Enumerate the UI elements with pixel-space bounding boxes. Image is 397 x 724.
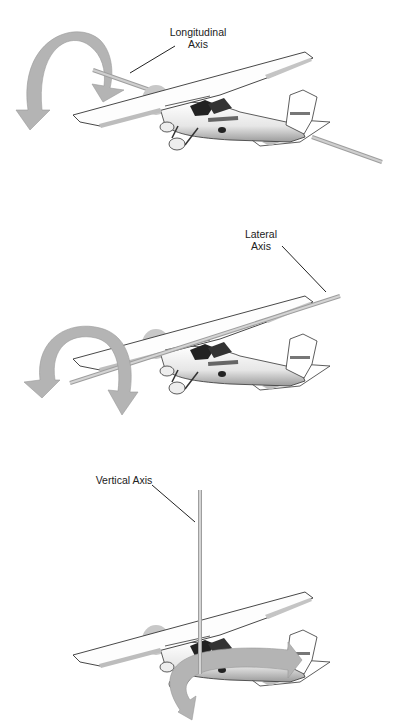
leader-line: [152, 485, 195, 522]
label-line-1: Longitudinal: [160, 26, 236, 38]
pitch-illustration: [0, 220, 397, 450]
label-line-2: Axis: [160, 38, 236, 50]
leader-line: [282, 246, 326, 292]
label-line-2: Axis: [236, 240, 286, 252]
panel-pitch-lateral-axis: Lateral Axis: [0, 220, 397, 450]
label-line-1: Lateral: [236, 228, 286, 240]
leader-line: [130, 46, 175, 73]
longitudinal-axis-label: Longitudinal Axis: [160, 26, 236, 50]
yaw-illustration: [0, 460, 397, 724]
panel-yaw-vertical-axis: Vertical Axis: [0, 460, 397, 724]
pitch-arrow-icon: [24, 326, 138, 415]
lateral-axis-label: Lateral Axis: [236, 228, 286, 252]
vertical-axis-label: Vertical Axis: [88, 474, 160, 486]
panel-roll-longitudinal-axis: Longitudinal Axis: [0, 0, 397, 200]
label-line-1: Vertical Axis: [88, 474, 160, 486]
